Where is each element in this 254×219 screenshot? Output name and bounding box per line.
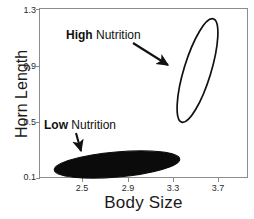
- annotation-low-plain: Nutrition: [68, 118, 116, 132]
- annotation-high-emphasis: High: [66, 28, 93, 42]
- chart-figure: 1.3 0.9 0.5 0.1 2.5 2.9 3.3 3.7 High Nut…: [0, 0, 254, 219]
- annotation-high-plain: Nutrition: [93, 28, 141, 42]
- ellipse-high-nutrition: [169, 15, 226, 126]
- ellipse-low-nutrition: [53, 147, 181, 183]
- y-axis-title: Horn Length: [13, 9, 31, 179]
- x-axis-title: Body Size: [39, 193, 248, 213]
- annotation-high-nutrition: High Nutrition: [66, 28, 141, 42]
- arrow-high-nutrition: [133, 43, 168, 65]
- annotation-low-nutrition: Low Nutrition: [44, 118, 116, 132]
- arrow-low-nutrition: [76, 133, 81, 151]
- annotation-low-emphasis: Low: [44, 118, 68, 132]
